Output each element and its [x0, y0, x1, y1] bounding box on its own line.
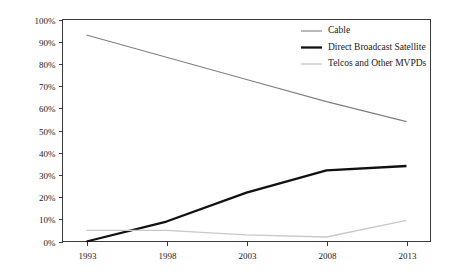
chart-container: 0%10%20%30%40%50%60%70%80%90%100% 199319…: [0, 0, 460, 278]
y-tick-label: 30%: [39, 171, 56, 181]
legend-label-telcos-and-other-mvpds: Telcos and Other MVPDs: [328, 58, 427, 68]
y-tick-label: 50%: [39, 127, 56, 137]
y-tick-label: 60%: [39, 104, 56, 114]
y-tick-label: 0%: [44, 238, 57, 248]
y-tick-label: 20%: [39, 193, 56, 203]
legend-label-cable: Cable: [328, 25, 350, 35]
y-tick-label: 10%: [39, 215, 56, 225]
y-tick-label: 70%: [39, 82, 56, 92]
y-tick-label: 100%: [35, 16, 57, 26]
x-tick-label: 2008: [319, 251, 338, 261]
x-tick-label: 2013: [399, 251, 418, 261]
legend-label-direct-broadcast-satellite: Direct Broadcast Satellite: [328, 42, 426, 52]
x-tick-label: 1993: [79, 251, 98, 261]
x-tick-label: 1998: [159, 251, 178, 261]
y-tick-label: 80%: [39, 60, 56, 70]
y-tick-label: 90%: [39, 38, 56, 48]
y-tick-label: 40%: [39, 149, 56, 159]
x-tick-label: 2003: [239, 251, 258, 261]
line-chart: 0%10%20%30%40%50%60%70%80%90%100% 199319…: [0, 0, 460, 278]
